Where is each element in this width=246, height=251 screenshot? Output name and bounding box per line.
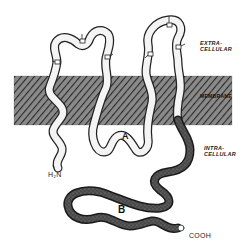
site-6 [176,44,185,49]
intracellular-label: INTRA- CELLULAR [204,146,236,157]
site-2 [80,34,85,43]
c-terminus-bead [178,225,184,231]
site-3 [105,54,113,59]
n-terminus-label: H₂N [48,171,62,178]
protein-topology-diagram: EXTRA- CELLULAR MEMBRANE INTRA- CELLULAR… [0,0,246,251]
domain-b-label: B [118,205,126,215]
intracellular-label-line2: CELLULAR [204,152,236,158]
membrane-label: MEMBRANE [200,94,232,99]
extracellular-label: EXTRA- CELLULAR [200,41,232,52]
extracellular-label-line2: CELLULAR [200,47,232,53]
c-terminus-label: COOH [189,232,211,239]
domain-a-label: A [122,132,129,141]
